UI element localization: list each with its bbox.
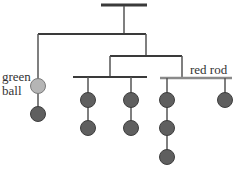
dark-ball <box>81 93 96 108</box>
dark-ball <box>160 93 175 108</box>
dark-ball <box>124 121 139 136</box>
dark-ball <box>160 121 175 136</box>
green-ball-label-line2: ball <box>2 84 22 97</box>
mobile-diagram: green ball red rod <box>0 0 237 169</box>
dark-ball <box>81 121 96 136</box>
mobile-drawing <box>0 0 237 169</box>
red-rod-label: red rod <box>190 63 227 76</box>
dark-ball <box>124 93 139 108</box>
green-ball <box>31 79 46 94</box>
dark-ball <box>218 93 233 108</box>
dark-ball <box>160 150 175 165</box>
dark-ball <box>31 107 46 122</box>
green-ball-label-line1: green <box>2 70 31 83</box>
